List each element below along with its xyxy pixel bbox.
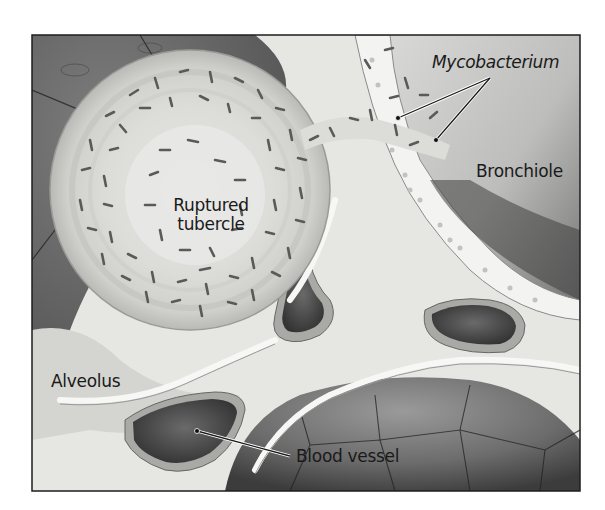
tuberculosis-lung-diagram <box>0 0 605 510</box>
label-blood-vessel: Blood vessel <box>296 447 399 466</box>
blood-vessel-pointer-dot <box>195 429 200 434</box>
label-mycobacterium: Mycobacterium <box>432 53 559 72</box>
mycobacterium-pointer-dot-2 <box>434 138 439 143</box>
label-ruptured-tubercle-line1: Ruptured <box>165 196 257 215</box>
mycobacterium-pointer-dot-1 <box>396 116 401 121</box>
label-ruptured-tubercle-line2: tubercle <box>165 215 257 234</box>
label-ruptured-tubercle: Ruptured tubercle <box>165 196 257 233</box>
label-alveolus: Alveolus <box>51 372 120 391</box>
label-bronchiole: Bronchiole <box>476 162 563 181</box>
